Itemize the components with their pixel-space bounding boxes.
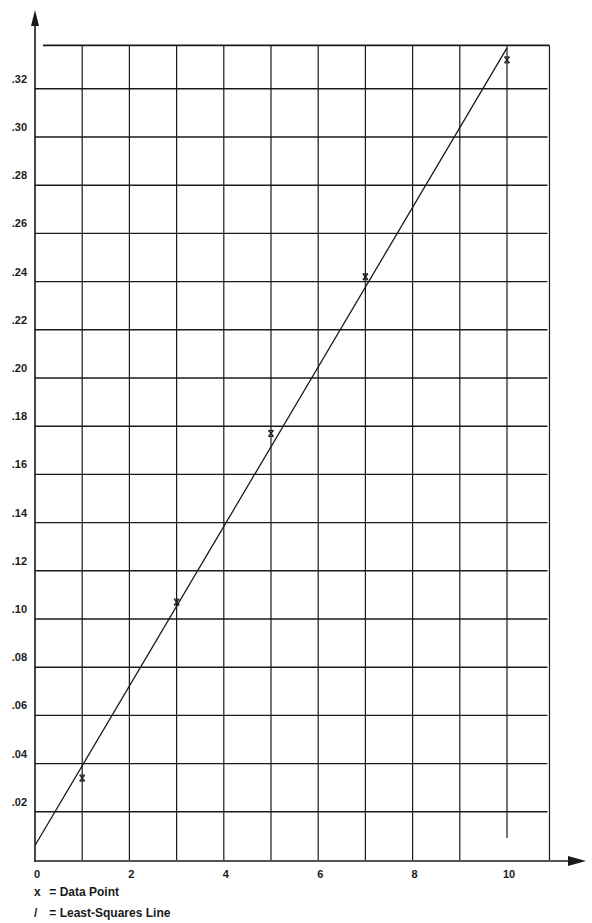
x-tick-label: 6 xyxy=(317,868,323,880)
x-axis-arrow-icon xyxy=(568,856,586,866)
y-tick-label: .30 xyxy=(12,121,27,133)
y-tick-label: .10 xyxy=(12,603,27,615)
x-tick-label: 10 xyxy=(503,868,515,880)
data-points xyxy=(80,57,510,781)
x-tick-label: 4 xyxy=(223,868,230,880)
chart-grid xyxy=(35,45,549,860)
y-tick-label: .24 xyxy=(12,266,28,278)
y-tick-label: .22 xyxy=(12,314,27,326)
y-tick-label: .18 xyxy=(12,410,27,422)
y-tick-label: .20 xyxy=(12,362,27,374)
y-tick-label: .26 xyxy=(12,217,27,229)
chart-axes xyxy=(31,10,586,866)
legend-item-least-squares-line: / = Least-Squares Line xyxy=(34,906,170,920)
legend-label: = Data Point xyxy=(49,885,119,899)
y-tick-label: .32 xyxy=(12,73,27,85)
y-tick-label: .16 xyxy=(12,458,27,470)
x-marker-icon: x xyxy=(34,885,46,899)
x-tick-label: 2 xyxy=(128,868,134,880)
legend-item-data-point: x = Data Point xyxy=(34,885,119,899)
y-tick-label: .08 xyxy=(12,651,27,663)
y-tick-label: .14 xyxy=(12,507,28,519)
y-tick-label: .12 xyxy=(12,555,27,567)
scatter-chart: .02.04.06.08.10.12.14.16.18.20.22.24.26.… xyxy=(0,0,592,923)
x-tick-label: 8 xyxy=(412,868,418,880)
legend-label: = Least-Squares Line xyxy=(49,906,170,920)
y-tick-label: .06 xyxy=(12,699,27,711)
x-tick-label: 0 xyxy=(34,868,40,880)
y-axis-arrow-icon xyxy=(31,10,39,26)
y-tick-label: .28 xyxy=(12,169,27,181)
slash-line-icon: / xyxy=(34,906,46,920)
y-tick-label: .04 xyxy=(12,748,28,760)
axis-tick-labels: .02.04.06.08.10.12.14.16.18.20.22.24.26.… xyxy=(12,73,515,880)
y-tick-label: .02 xyxy=(12,796,27,808)
